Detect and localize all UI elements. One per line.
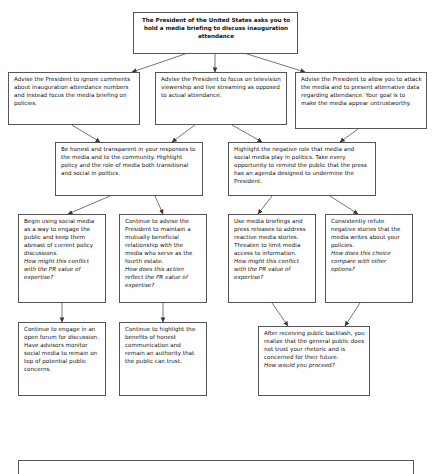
node-l4-c: Use media briefings and press releases t… xyxy=(228,214,316,303)
node-l5-b: Continue to highlight the benefits of ho… xyxy=(119,322,207,396)
connector-l2b-to-l3b xyxy=(232,125,262,142)
connector-l3a-to-l4a xyxy=(68,196,110,214)
node-l4-c-text: Use media briefings and press releases t… xyxy=(234,218,311,258)
node-l3-a-text: Be honest and transparent in your respon… xyxy=(61,146,198,178)
node-l5-c: After receiving public backlash, you rea… xyxy=(258,326,370,396)
connector-l4c-to-l5c xyxy=(272,303,288,326)
node-l4-a: Begin using social media as a way to eng… xyxy=(18,214,106,303)
node-l3-b: Highlight the negative role that media a… xyxy=(228,142,376,196)
node-l3-b-text: Highlight the negative role that media a… xyxy=(234,146,371,186)
connector-l4d-to-l5c xyxy=(345,303,360,326)
node-root: The President of the United States asks … xyxy=(133,12,298,54)
node-l4-d-question: How does this choice compare with other … xyxy=(331,250,408,274)
connector-l3b-to-l4c xyxy=(258,196,272,214)
connector-root-to-l2c xyxy=(247,54,305,72)
connector-l2c-to-l3b xyxy=(340,129,358,142)
node-l2-a-text: Advise the President to ignore comments … xyxy=(14,76,135,108)
node-l2-a: Advise the President to ignore comments … xyxy=(8,72,140,125)
node-l4-b-text: Continue to advise the President to main… xyxy=(125,218,202,266)
node-l4-d-text: Consistently refute negative stories tha… xyxy=(331,218,408,250)
node-l5-c-question: How would you proceed? xyxy=(264,362,365,370)
connector-l2a-to-l3a xyxy=(72,125,100,142)
connector-l3a-to-l4b xyxy=(155,196,163,214)
node-l4-b: Continue to advise the President to main… xyxy=(119,214,207,303)
connector-l3b-to-l4d xyxy=(330,196,358,214)
node-footer-clipped xyxy=(18,460,414,474)
connector-l2b-to-l3a xyxy=(172,125,195,142)
node-l5-b-text: Continue to highlight the benefits of ho… xyxy=(125,326,202,366)
node-l5-a-text: Continue to engage in an open forum for … xyxy=(24,326,101,374)
node-l2-b: Advise the President to focus on televis… xyxy=(155,72,287,125)
connector-root-to-l2a xyxy=(132,54,185,72)
node-root-text: The President of the United States asks … xyxy=(139,17,293,41)
node-l4-a-question: How might this conflict with the PR valu… xyxy=(24,258,101,282)
node-l3-a: Be honest and transparent in your respon… xyxy=(55,142,203,196)
node-l2-c-text: Advise the President to allow you to att… xyxy=(301,76,422,108)
node-l5-a: Continue to engage in an open forum for … xyxy=(18,322,106,396)
node-l4-b-question: How does this action reflect the PR valu… xyxy=(125,266,202,290)
node-l4-d: Consistently refute negative stories tha… xyxy=(325,214,413,303)
node-l4-c-question: How might this conflict with the PR valu… xyxy=(234,258,311,282)
node-l5-c-text: After receiving public backlash, you rea… xyxy=(264,330,365,362)
node-l4-a-text: Begin using social media as a way to eng… xyxy=(24,218,101,258)
node-l2-b-text: Advise the President to focus on televis… xyxy=(161,76,282,100)
node-l2-c: Advise the President to allow you to att… xyxy=(295,72,427,129)
